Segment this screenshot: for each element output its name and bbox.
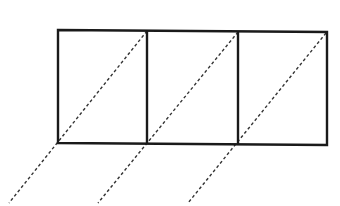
three-squares-diagram bbox=[0, 0, 340, 206]
dashed-diagonal-2 bbox=[98, 32, 238, 203]
dashed-diagonal-1 bbox=[9, 31, 147, 203]
dashed-diagonals bbox=[9, 31, 326, 203]
diagram-canvas bbox=[0, 0, 340, 206]
dashed-diagonal-3 bbox=[188, 33, 326, 203]
